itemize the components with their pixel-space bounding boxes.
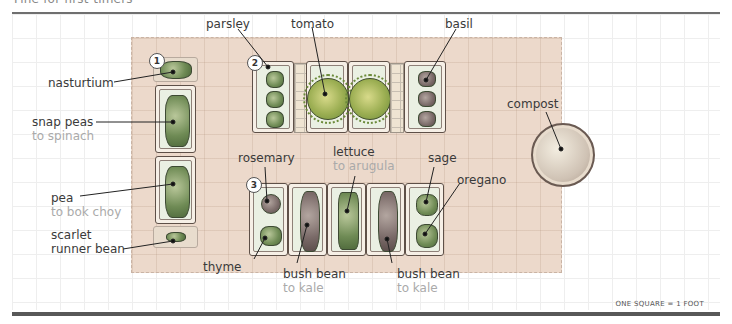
label-compost: compost	[507, 97, 559, 111]
label-lettuce: lettuceto arugula	[333, 145, 395, 173]
scale-note: ONE SQUARE = 1 FOOT	[615, 300, 704, 308]
label-scarlet-runner-bean: scarletrunner bean	[51, 228, 125, 256]
succession-text: to bok choy	[51, 205, 121, 219]
label-rosemary: rosemary	[238, 151, 295, 165]
label-parsley: parsley	[206, 17, 250, 31]
succession-text: to kale	[397, 281, 460, 295]
succession-text: to arugula	[333, 159, 395, 173]
succession-text: to spinach	[32, 129, 94, 143]
label-pea: peato bok choy	[51, 191, 121, 219]
label-nasturtium: nasturtium	[48, 76, 114, 90]
label-thyme: thyme	[203, 260, 241, 274]
label-bush-bean-2: bush beanto kale	[397, 267, 460, 295]
label-bush-bean-1: bush beanto kale	[283, 267, 346, 295]
bottom-divider	[12, 312, 720, 316]
label-basil: basil	[445, 17, 473, 31]
label-sage: sage	[428, 151, 457, 165]
succession-text: to kale	[283, 281, 346, 295]
label-snap-peas: snap peasto spinach	[32, 115, 94, 143]
label-tomato: tomato	[291, 17, 334, 31]
label-oregano: oregano	[457, 173, 506, 187]
